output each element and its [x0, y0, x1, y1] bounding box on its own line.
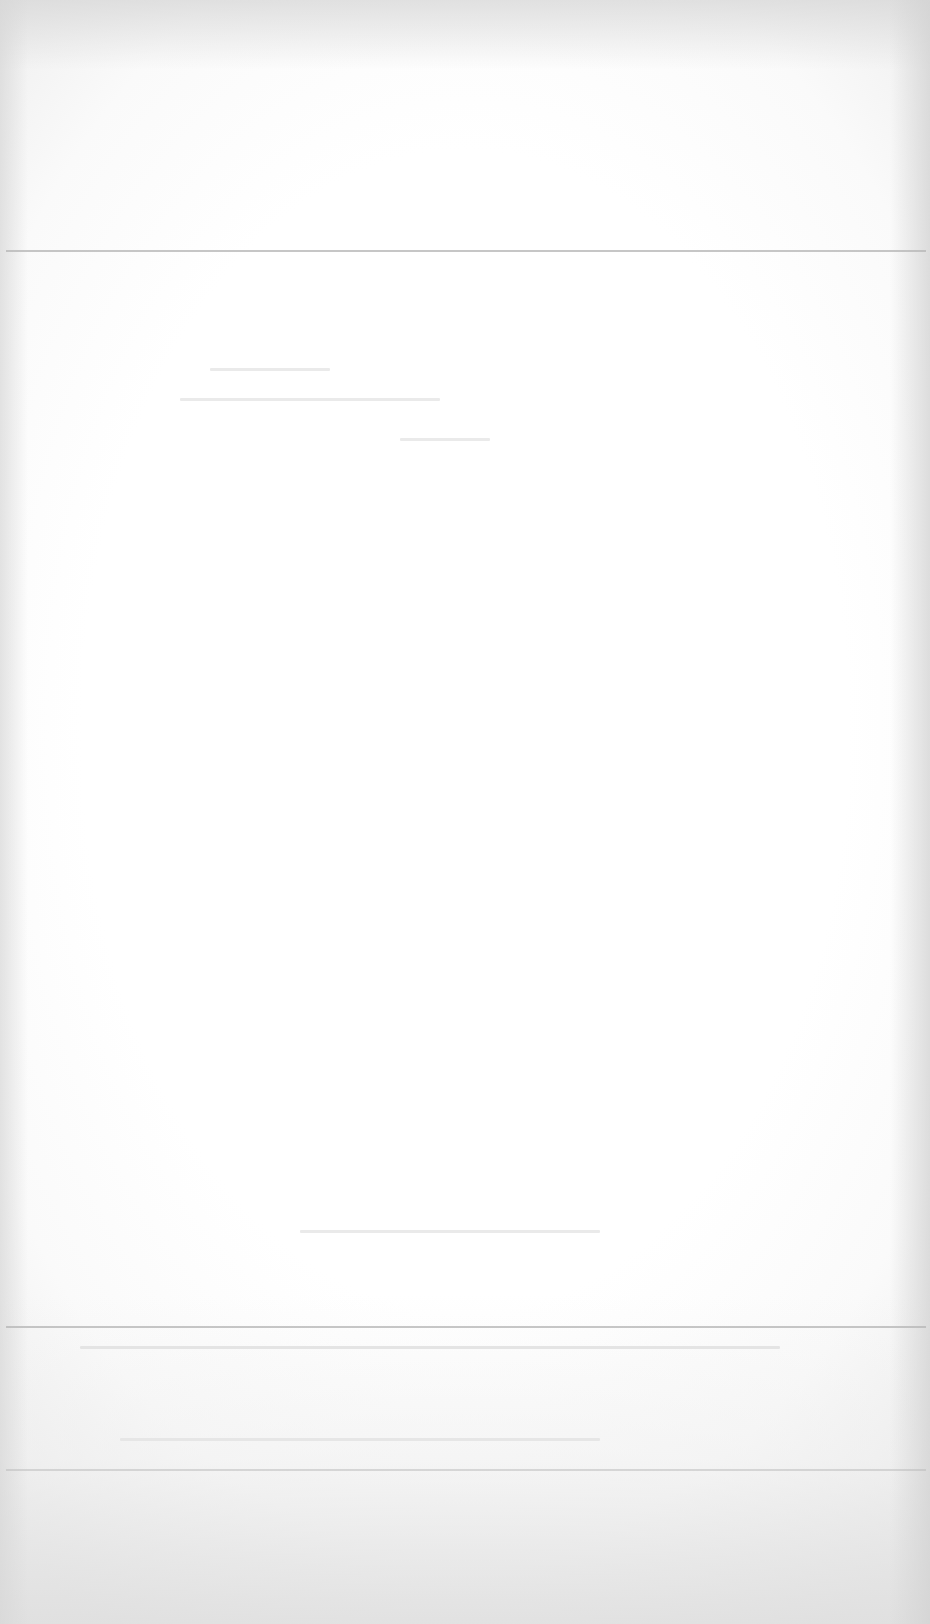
bleed-through-mark — [210, 368, 330, 371]
bottom-edge-shading — [0, 1294, 930, 1624]
right-edge-shading — [890, 0, 930, 1624]
horizontal-rule-bottom — [6, 1469, 926, 1471]
bleed-through-mark — [180, 398, 440, 401]
horizontal-rule-top — [6, 250, 926, 252]
top-edge-shading — [0, 0, 930, 70]
scanned-page — [0, 0, 930, 1624]
bleed-through-mark — [300, 1230, 600, 1233]
bleed-through-mark — [400, 438, 490, 441]
left-edge-shading — [0, 0, 28, 1624]
bleed-through-mark — [120, 1438, 600, 1441]
bleed-through-mark — [80, 1346, 780, 1349]
horizontal-rule-lower — [6, 1326, 926, 1328]
